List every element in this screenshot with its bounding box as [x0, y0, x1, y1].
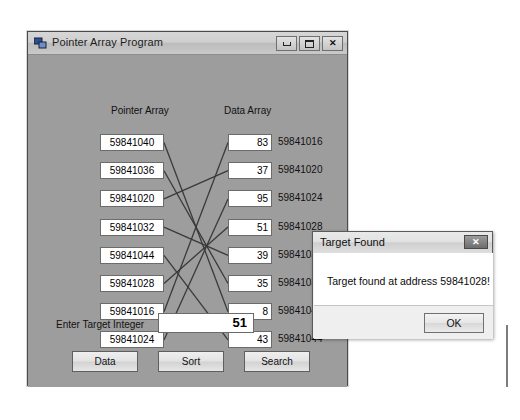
- pointer-wire: [164, 227, 228, 283]
- app-window: Pointer Array Program ✕ Pointer Array Da…: [27, 31, 348, 386]
- pointer-box: 59841024: [100, 331, 164, 348]
- pointer-wire: [164, 143, 228, 312]
- window-titlebar[interactable]: Pointer Array Program ✕: [28, 32, 347, 55]
- pointer-wire: [164, 143, 228, 312]
- window-title: Pointer Array Program: [52, 36, 163, 48]
- pointer-box: 59841044: [100, 247, 164, 264]
- screen-edge-artifact: [506, 325, 508, 387]
- target-input[interactable]: 51: [158, 313, 254, 333]
- dialog-message: Target found at address 59841028!: [327, 275, 490, 287]
- data-array-header: Data Array: [224, 105, 271, 116]
- dialog-body: Target found at address 59841028!: [314, 253, 493, 306]
- pointer-box: 59841036: [100, 162, 164, 179]
- minimize-icon: [283, 42, 291, 46]
- minimize-button[interactable]: [276, 36, 297, 51]
- data-box: 83: [228, 134, 272, 151]
- sort-button[interactable]: Sort: [158, 351, 224, 372]
- data-box: 39: [228, 247, 272, 264]
- pointer-box: 59841040: [100, 134, 164, 151]
- data-button[interactable]: Data: [72, 351, 138, 372]
- pointer-box: 59841016: [100, 303, 164, 320]
- data-address-label: 59841024: [278, 190, 340, 207]
- pointer-wire: [164, 227, 228, 255]
- maximize-button[interactable]: [299, 36, 320, 51]
- close-icon: ✕: [472, 237, 480, 247]
- dialog-footer: OK: [314, 306, 493, 339]
- form-app-icon: [34, 37, 47, 50]
- form-client-area: Pointer Array Data Array 598410405984103…: [28, 55, 347, 387]
- data-box: 35: [228, 275, 272, 292]
- pointer-array-header: Pointer Array: [111, 105, 169, 116]
- dialog-close-button[interactable]: ✕: [464, 235, 488, 249]
- pointer-wire: [164, 171, 228, 284]
- search-button[interactable]: Search: [244, 351, 310, 372]
- pointer-wire: [164, 171, 228, 199]
- pointer-box: 59841028: [100, 275, 164, 292]
- maximize-icon: [305, 40, 314, 48]
- dialog-ok-button[interactable]: OK: [424, 313, 484, 333]
- data-box: 51: [228, 219, 272, 236]
- close-button[interactable]: ✕: [322, 36, 343, 51]
- data-address-label: 59841016: [278, 134, 340, 151]
- dialog-title: Target Found: [320, 236, 385, 248]
- target-found-dialog: Target Found ✕ Target found at address 5…: [312, 231, 493, 339]
- data-box: 37: [228, 162, 272, 179]
- target-input-label: Enter Target Integer: [56, 319, 144, 330]
- dialog-titlebar[interactable]: Target Found ✕: [313, 232, 492, 253]
- data-box: 43: [228, 331, 272, 348]
- close-icon: ✕: [329, 39, 337, 48]
- pointer-box: 59841032: [100, 219, 164, 236]
- pointer-box: 59841020: [100, 190, 164, 207]
- data-box: 95: [228, 190, 272, 207]
- data-address-label: 59841020: [278, 162, 340, 179]
